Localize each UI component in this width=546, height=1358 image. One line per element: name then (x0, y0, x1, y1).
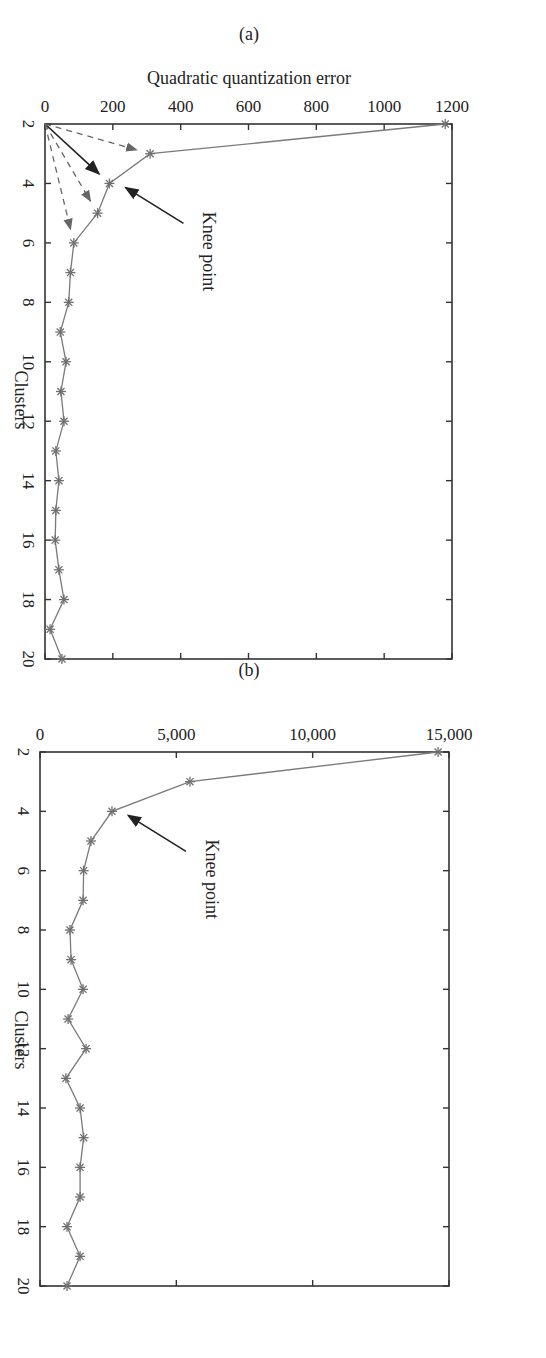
y-tick-label: 800 (304, 97, 330, 116)
asterisk-marker-icon (45, 624, 55, 634)
asterisk-marker-icon (56, 387, 66, 397)
x-tick-label: 2 (19, 120, 38, 129)
asterisk-marker-icon (79, 866, 89, 876)
x-tick-label: 16 (19, 532, 38, 549)
asterisk-marker-icon (59, 595, 69, 605)
x-tick-label: 6 (14, 866, 33, 875)
knee-point-label: Knee point (199, 212, 219, 291)
knee-point-label: Knee point (202, 840, 222, 919)
x-axis-label-a: Clusters (11, 370, 31, 429)
asterisk-marker-icon (185, 777, 195, 787)
error-line-b (66, 752, 438, 1286)
x-axis-ticks-b: 2468101214161820 (14, 748, 449, 1295)
y-tick-label: 1200 (435, 97, 469, 116)
y-tick-label: 0 (36, 725, 45, 744)
y-tick-label: 10,000 (289, 725, 336, 744)
plot-frame-b (40, 752, 449, 1286)
x-tick-label: 8 (14, 926, 33, 935)
asterisk-marker-icon (81, 1044, 91, 1054)
asterisk-marker-icon (55, 327, 65, 337)
chart-panel-b: 2468101214161820 05,00010,00015,000 Knee… (11, 660, 472, 1295)
chart-panel-a: 2468101214161820 020040060080010001200 K… (11, 24, 469, 668)
y-tick-label: 400 (168, 97, 194, 116)
x-tick-label: 4 (14, 807, 33, 816)
asterisk-marker-icon (64, 297, 74, 307)
rotated-figure: 2468101214161820 020040060080010001200 K… (0, 0, 546, 1358)
asterisk-marker-icon (54, 565, 64, 575)
chart-canvas: 2468101214161820 020040060080010001200 K… (0, 0, 546, 1358)
asterisk-marker-icon (79, 1133, 89, 1143)
asterisk-marker-icon (63, 1014, 73, 1024)
asterisk-marker-icon (57, 654, 67, 664)
annotations-b: Knee point (128, 815, 222, 919)
y-tick-label: 200 (100, 97, 126, 116)
x-tick-label: 20 (14, 1278, 33, 1295)
asterisk-marker-icon (65, 268, 75, 278)
asterisk-marker-icon (75, 1251, 85, 1261)
asterisk-marker-icon (78, 895, 88, 905)
asterisk-marker-icon (61, 357, 71, 367)
x-tick-label: 14 (14, 1100, 33, 1118)
x-tick-label: 14 (19, 472, 38, 490)
asterisk-marker-icon (107, 806, 117, 816)
x-axis-label-b: Clusters (11, 1010, 31, 1069)
y-axis-label-a: Quadratic quantization error (147, 68, 351, 88)
x-tick-label: 10 (19, 353, 38, 370)
asterisk-marker-icon (54, 476, 64, 486)
x-tick-label: 20 (19, 651, 38, 668)
asterisk-marker-icon (433, 747, 443, 757)
asterisk-marker-icon (75, 1192, 85, 1202)
x-axis-ticks-a: 2468101214161820 (19, 120, 452, 668)
x-tick-label: 4 (19, 179, 38, 188)
asterisk-marker-icon (86, 836, 96, 846)
figure-stage: 2468101214161820 020040060080010001200 K… (0, 0, 546, 1358)
asterisk-marker-icon (62, 1222, 72, 1232)
y-axis-ticks-a: 020040060080010001200 (41, 97, 469, 659)
x-tick-label: 8 (19, 298, 38, 307)
asterisk-marker-icon (75, 1162, 85, 1172)
x-tick-label: 6 (19, 239, 38, 248)
x-tick-label: 18 (19, 591, 38, 608)
asterisk-marker-icon (440, 119, 450, 129)
y-axis-ticks-b: 05,00010,00015,000 (36, 725, 473, 1286)
asterisk-marker-icon (69, 238, 79, 248)
asterisk-marker-icon (65, 925, 75, 935)
dashed-arrow-icon (45, 124, 71, 229)
y-tick-label: 1000 (367, 97, 401, 116)
panel-label-b: (b) (239, 660, 260, 681)
asterisk-marker-icon (145, 149, 155, 159)
dashed-arrow-icon (45, 124, 90, 201)
panel-label-a: (a) (239, 24, 259, 45)
x-tick-label: 10 (14, 981, 33, 998)
asterisk-marker-icon (62, 1281, 72, 1291)
y-tick-label: 0 (41, 97, 50, 116)
error-line-a (50, 124, 445, 659)
x-tick-label: 16 (14, 1159, 33, 1176)
asterisk-marker-icon (78, 984, 88, 994)
y-tick-label: 5,000 (157, 725, 195, 744)
asterisk-marker-icon (59, 416, 69, 426)
solid-arrow-icon (45, 124, 99, 174)
asterisk-marker-icon (104, 178, 114, 188)
data-markers-a (45, 119, 450, 664)
asterisk-marker-icon (51, 505, 61, 515)
asterisk-marker-icon (51, 446, 61, 456)
x-tick-label: 18 (14, 1218, 33, 1235)
asterisk-marker-icon (50, 535, 60, 545)
data-markers-b (61, 747, 443, 1291)
y-tick-label: 15,000 (426, 725, 473, 744)
plot-frame-a (45, 124, 452, 659)
asterisk-marker-icon (75, 1103, 85, 1113)
knee-point-arrow-icon (125, 187, 183, 223)
x-tick-label: 2 (14, 748, 33, 757)
asterisk-marker-icon (93, 208, 103, 218)
asterisk-marker-icon (61, 1073, 71, 1083)
knee-point-arrow-icon (128, 815, 186, 851)
y-tick-label: 600 (236, 97, 262, 116)
asterisk-marker-icon (66, 955, 76, 965)
